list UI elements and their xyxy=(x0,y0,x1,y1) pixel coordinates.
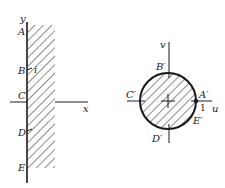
tick-label-1: 1 xyxy=(200,103,206,113)
left-panel: y x A B i C D E xyxy=(10,13,89,183)
point-label-c-prime: C′ xyxy=(126,89,137,100)
diagram-canvas: y x A B i C D E v u B′ C′ A′ 1 E′ D′ xyxy=(0,0,225,188)
point-label-b: B xyxy=(17,65,25,76)
point-label-d: D xyxy=(17,127,26,138)
x-axis-label: x xyxy=(83,103,89,114)
point-label-a-prime: A′ xyxy=(198,89,209,100)
right-panel: v u B′ C′ A′ 1 E′ D′ xyxy=(126,39,218,144)
v-axis-label: v xyxy=(160,39,166,50)
hatched-strip xyxy=(28,25,55,168)
point-label-d-prime: D′ xyxy=(151,133,163,144)
y-axis-label: y xyxy=(19,13,26,24)
point-label-e: E xyxy=(17,162,26,173)
point-label-a: A xyxy=(17,26,25,37)
point-label-c: C xyxy=(18,90,26,101)
point-label-e-prime: E′ xyxy=(192,115,203,126)
point-label-b-prime: B′ xyxy=(155,61,166,72)
tick-label-i: i xyxy=(34,64,37,75)
u-axis-label: u xyxy=(212,103,218,114)
point-a-prime-dot xyxy=(194,99,198,103)
